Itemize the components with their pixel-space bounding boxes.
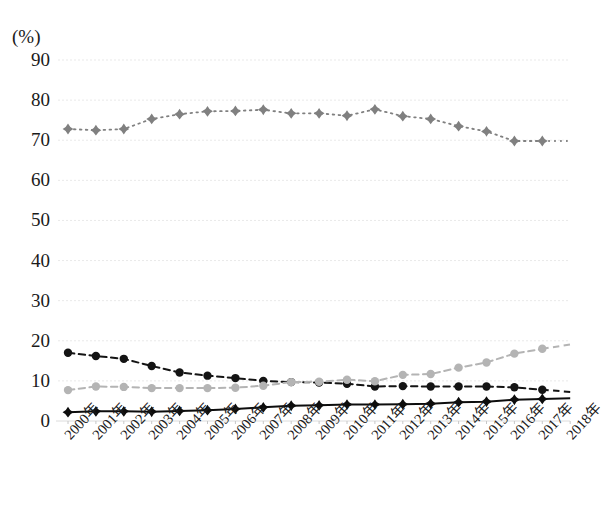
series-black-circle-declining-marker <box>231 374 239 382</box>
series-black-circle-declining-marker <box>175 368 183 376</box>
gridlines <box>58 60 570 381</box>
series-gray-diamond-high-marker <box>370 104 381 115</box>
series-gray-diamond-high-marker <box>342 110 353 121</box>
series-black-circle-declining-marker <box>92 352 100 360</box>
series-black-circle-declining-marker <box>120 355 128 363</box>
series-gray-diamond-high-marker <box>425 114 436 125</box>
series-gray-diamond-high-marker <box>286 108 297 119</box>
series-gray-diamond-high-marker <box>258 104 269 115</box>
series-gray-diamond-high-marker <box>537 136 548 147</box>
series-lightgray-circle-rising-marker <box>175 384 183 392</box>
series-lightgray-circle-rising-marker <box>454 363 462 371</box>
series-black-circle-declining-marker <box>64 349 72 357</box>
series-gray-diamond-high-marker <box>146 114 157 125</box>
series-lightgray-circle-rising-marker <box>538 345 546 353</box>
series-black-circle-declining-marker <box>482 382 490 390</box>
series-lightgray-circle-rising-marker <box>231 384 239 392</box>
series-gray-diamond-high-marker <box>509 136 520 147</box>
series-black-circle-declining-marker <box>454 382 462 390</box>
series-lightgray-circle-rising-marker <box>259 382 267 390</box>
series-lightgray-circle-rising-marker <box>510 349 518 357</box>
series-gray-diamond-high-marker <box>174 109 185 120</box>
series-lightgray-circle-rising-marker <box>482 358 490 366</box>
series-gray-diamond-high-marker <box>314 108 325 119</box>
series-lightgray-circle-rising-marker <box>315 377 323 385</box>
series-gray-diamond-high-marker <box>118 124 129 135</box>
series-lightgray-circle-rising-marker <box>148 384 156 392</box>
series-gray-diamond-high-line <box>68 109 542 141</box>
series-lightgray-circle-rising-marker <box>371 377 379 385</box>
series-lightgray-circle-rising-marker <box>64 386 72 394</box>
series-lightgray-circle-rising-marker <box>343 375 351 383</box>
series-black-circle-declining-marker <box>148 362 156 370</box>
series-black-circle-declining-marker <box>538 386 546 394</box>
series-black-circle-declining-line <box>68 353 542 390</box>
series-gray-diamond-high-marker <box>230 106 241 117</box>
series-lightgray-circle-rising-marker <box>120 383 128 391</box>
series-lightgray-circle-rising-marker <box>399 371 407 379</box>
series-black-circle-declining-marker <box>427 382 435 390</box>
series-lightgray-circle-rising-marker <box>427 370 435 378</box>
series-black-circle-declining-marker <box>203 371 211 379</box>
series-gray-diamond-high-marker <box>397 111 408 122</box>
series-lightgray-circle-rising-marker <box>287 378 295 386</box>
series-gray-diamond-high-marker <box>453 121 464 132</box>
series-gray-diamond-high-marker <box>91 125 102 136</box>
series-gray-diamond-high-marker <box>202 106 213 117</box>
series-lightgray-circle-rising-marker <box>92 382 100 390</box>
series-lightgray-circle-rising-line <box>68 349 542 390</box>
series-lightgray-circle-rising-line-tail <box>542 344 570 348</box>
series-lightgray-circle-rising <box>64 344 570 394</box>
series-gray-diamond-high-marker <box>481 126 492 137</box>
series-black-circle-declining-marker <box>510 383 518 391</box>
series-black-circle-declining-marker <box>399 382 407 390</box>
series-lightgray-circle-rising-marker <box>203 384 211 392</box>
series-gray-diamond-high-marker <box>63 124 74 135</box>
